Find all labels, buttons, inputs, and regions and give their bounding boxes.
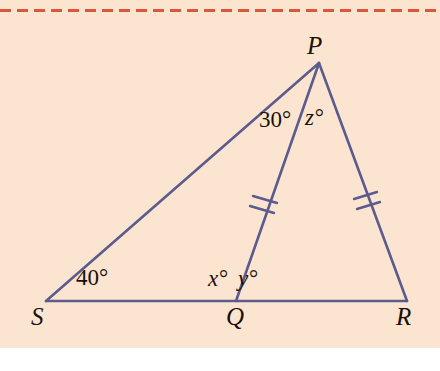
vertex-label-P: P xyxy=(307,33,322,58)
vertex-label-S: S xyxy=(31,304,44,329)
triangle-diagram xyxy=(0,0,440,348)
angle-label-z-degrees: z° xyxy=(305,106,323,129)
tick-mark-PR-1 xyxy=(354,192,377,199)
figure-canvas: P S Q R 30° z° 40° x° y° xyxy=(0,0,440,348)
angle-label-x-degrees: x° xyxy=(208,267,227,290)
tick-mark-PR-2 xyxy=(357,202,380,209)
tick-mark-PQ-2 xyxy=(250,206,274,213)
angle-label-y-degrees: y° xyxy=(238,267,257,290)
angle-label-30-degrees: 30° xyxy=(259,108,291,131)
segment-PR xyxy=(319,63,407,301)
vertex-label-R: R xyxy=(396,304,411,329)
vertex-label-Q: Q xyxy=(226,304,244,329)
geometry-figure: P S Q R 30° z° 40° x° y° xyxy=(0,0,440,371)
angle-label-40-degrees: 40° xyxy=(76,266,108,289)
